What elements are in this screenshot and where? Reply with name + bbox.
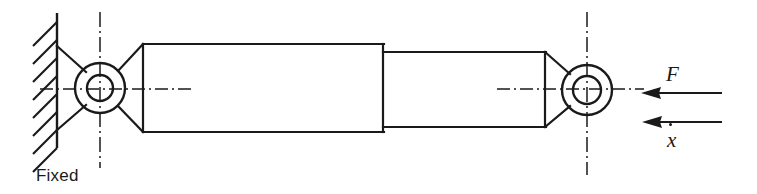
wall-hatching (33, 22, 57, 172)
centerlines (40, 12, 644, 175)
overdot-icon (669, 123, 672, 126)
force-arrow (641, 87, 722, 99)
velocity-letter: x (667, 128, 676, 152)
velocity-arrow-head (642, 116, 662, 128)
fixed-label: Fixed (36, 166, 79, 186)
cylinder-barrel (118, 44, 384, 132)
velocity-label: x (667, 128, 676, 153)
actuator-diagram: Fixed F x (0, 0, 757, 194)
piston-rod (383, 52, 570, 127)
velocity-symbol: x (667, 128, 676, 153)
left-mount-bracket (57, 46, 86, 130)
fixed-wall-group (33, 13, 57, 172)
velocity-arrow (642, 116, 722, 128)
force-label: F (666, 62, 679, 87)
diagram-canvas (0, 0, 757, 194)
